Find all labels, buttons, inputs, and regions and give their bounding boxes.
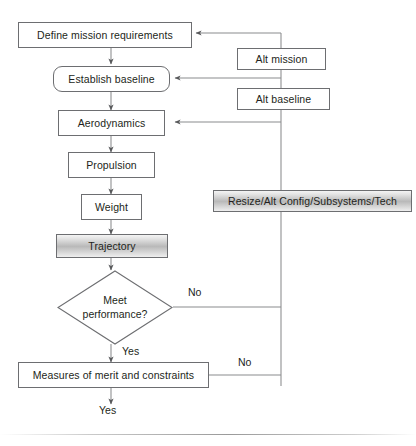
node-resize[interactable]: Resize/Alt Config/Subsystems/Tech [213,190,412,212]
node-trajectory[interactable]: Trajectory [56,234,168,258]
node-aerodynamics[interactable]: Aerodynamics [58,110,165,136]
node-meet-performance[interactable]: Meet performance? [57,270,173,345]
edge-label-decision-yes: Yes [122,345,139,357]
node-alt-baseline[interactable]: Alt baseline [237,88,330,110]
node-meet-performance-line1: Meet [57,294,173,307]
node-alt-mission-label: Alt mission [256,53,308,65]
flowchart-canvas: Define mission requirements Establish ba… [0,0,416,446]
footer-divider [0,434,416,435]
node-alt-mission[interactable]: Alt mission [237,48,326,70]
edge-label-decision-no: No [188,286,201,298]
node-meet-performance-line2: performance? [57,308,173,321]
edge-label-measures-no: No [238,356,251,368]
node-establish-baseline-label: Establish baseline [68,73,154,85]
node-resize-label: Resize/Alt Config/Subsystems/Tech [228,195,397,207]
node-alt-baseline-label: Alt baseline [256,93,311,105]
edge-label-measures-yes: Yes [99,404,116,416]
node-measures[interactable]: Measures of merit and constraints [18,362,209,388]
node-define-mission-label: Define mission requirements [37,29,173,41]
node-propulsion-label: Propulsion [86,159,137,171]
node-define-mission[interactable]: Define mission requirements [18,22,192,48]
node-aerodynamics-label: Aerodynamics [78,117,146,129]
node-trajectory-label: Trajectory [88,240,135,252]
node-measures-label: Measures of merit and constraints [33,369,194,381]
node-weight-label: Weight [95,201,128,213]
node-propulsion[interactable]: Propulsion [68,152,155,178]
node-establish-baseline[interactable]: Establish baseline [53,66,170,92]
node-weight[interactable]: Weight [81,194,142,220]
